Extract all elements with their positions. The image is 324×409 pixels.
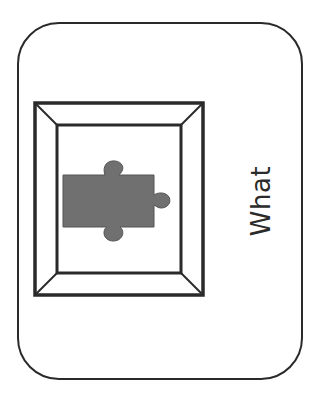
card-label: What <box>246 166 276 236</box>
puzzle-piece-icon <box>63 161 170 241</box>
